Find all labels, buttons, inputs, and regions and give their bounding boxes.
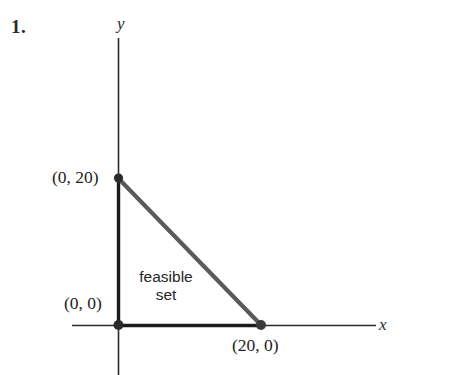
feasible-set-label-line2: set (128, 286, 204, 304)
vertex-label-0-20: (0, 20) (52, 169, 99, 187)
vertex-label-0-0: (0, 0) (64, 295, 102, 313)
feasible-set-label: feasible set (128, 268, 204, 304)
feasible-set-figure: 1. y x (0, 20) (0, 0) (20, 0) feasible s… (0, 0, 459, 375)
feasible-set-label-line1: feasible (128, 268, 204, 286)
vertex-marker-0-20 (114, 173, 123, 182)
plot-canvas (0, 0, 459, 375)
problem-number: 1. (11, 17, 26, 36)
vertex-label-20-0: (20, 0) (232, 337, 279, 355)
vertex-marker-0-0 (114, 320, 124, 330)
x-axis-label: x (379, 316, 387, 333)
y-axis-label: y (117, 15, 125, 32)
vertex-marker-20-0 (256, 320, 266, 330)
